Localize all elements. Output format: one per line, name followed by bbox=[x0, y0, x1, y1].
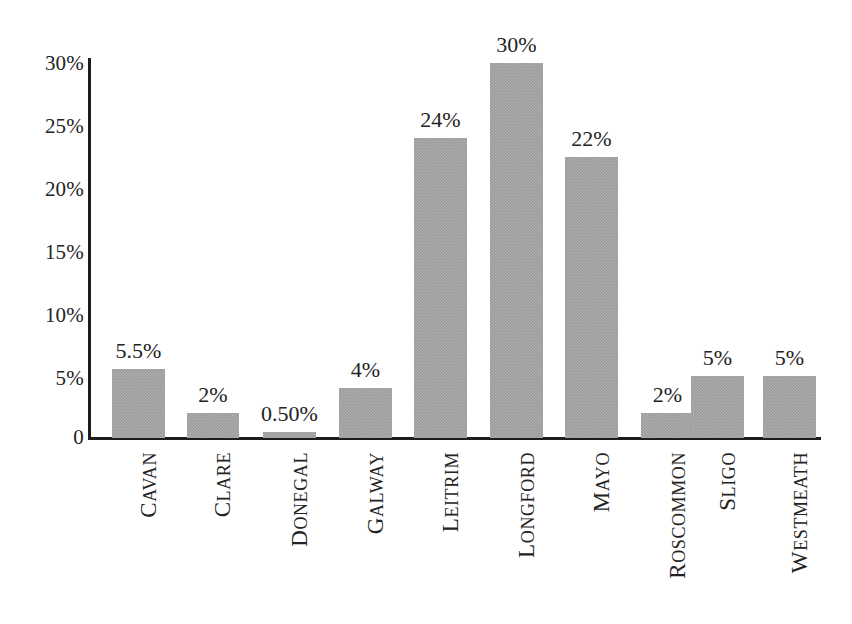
bar-westmeath[interactable] bbox=[763, 376, 816, 438]
x-label-slot-westmeath: WESTMEATH bbox=[763, 444, 816, 619]
x-label-cavan: CAVAN bbox=[139, 452, 160, 518]
bar-mayo[interactable] bbox=[565, 157, 618, 438]
x-label-slot-cavan: CAVAN bbox=[112, 444, 165, 619]
x-label-leitrim: LEITRIM bbox=[441, 452, 462, 532]
x-label-sligo: SLIGO bbox=[718, 452, 739, 511]
x-label-slot-roscommon: ROSCOMMON bbox=[641, 444, 694, 619]
x-label-westmeath: WESTMEATH bbox=[790, 452, 811, 573]
x-label-mayo: MAYO bbox=[592, 452, 613, 512]
plot-area: 5.5% 2% 0.50% 4% 24% 30% 22% 2% bbox=[91, 58, 821, 438]
bar-group-mayo[interactable]: 22% bbox=[565, 58, 618, 438]
bar-value-galway: 4% bbox=[351, 359, 380, 381]
bar-group-clare[interactable]: 2% bbox=[187, 58, 239, 438]
x-label-slot-longford: LONGFORD bbox=[490, 444, 543, 619]
x-label-slot-mayo: MAYO bbox=[565, 444, 618, 619]
y-tick-label-0: 0 bbox=[0, 427, 84, 448]
bar-group-galway[interactable]: 4% bbox=[339, 58, 392, 438]
bar-value-donegal: 0.50% bbox=[261, 403, 318, 425]
bar-value-roscommon: 2% bbox=[653, 384, 682, 406]
x-label-slot-donegal: DONEGAL bbox=[263, 444, 316, 619]
bar-galway[interactable] bbox=[339, 388, 392, 438]
bar-group-leitrim[interactable]: 24% bbox=[414, 58, 467, 438]
bar-leitrim[interactable] bbox=[414, 138, 467, 438]
bar-value-cavan: 5.5% bbox=[116, 340, 162, 362]
y-tick-label-20: 20% bbox=[0, 179, 84, 200]
bar-group-cavan[interactable]: 5.5% bbox=[112, 58, 165, 438]
y-tick-label-10: 10% bbox=[0, 305, 84, 326]
x-label-slot-galway: GALWAY bbox=[339, 444, 392, 619]
bar-value-westmeath: 5% bbox=[775, 347, 804, 369]
x-label-donegal: DONEGAL bbox=[290, 452, 311, 547]
bar-group-longford[interactable]: 30% bbox=[490, 58, 543, 438]
x-label-longford: LONGFORD bbox=[517, 452, 538, 558]
y-tick-label-30: 30% bbox=[0, 53, 84, 74]
bar-value-clare: 2% bbox=[198, 384, 227, 406]
x-label-slot-sligo: SLIGO bbox=[691, 444, 744, 619]
x-label-clare: CLARE bbox=[213, 452, 234, 517]
bar-cavan[interactable] bbox=[112, 369, 165, 438]
bar-longford[interactable] bbox=[490, 63, 543, 438]
bar-group-roscommon[interactable]: 2% bbox=[641, 58, 694, 438]
y-tick-label-5: 5% bbox=[0, 368, 84, 389]
bar-group-donegal[interactable]: 0.50% bbox=[263, 58, 316, 438]
x-label-roscommon: ROSCOMMON bbox=[668, 452, 689, 579]
bar-value-leitrim: 24% bbox=[420, 109, 460, 131]
bar-group-westmeath[interactable]: 5% bbox=[763, 58, 816, 438]
y-axis-tick-labels: 30% 25% 20% 15% 10% 5% 0 bbox=[0, 0, 84, 624]
bar-donegal[interactable] bbox=[263, 432, 316, 438]
bar-roscommon[interactable] bbox=[641, 413, 694, 438]
y-tick-label-25: 25% bbox=[0, 116, 84, 137]
bar-clare[interactable] bbox=[187, 413, 239, 438]
bar-chart: 30% 25% 20% 15% 10% 5% 0 5.5% 2% 0.50% 4… bbox=[0, 0, 852, 624]
x-label-galway: GALWAY bbox=[366, 452, 387, 534]
bar-value-sligo: 5% bbox=[703, 347, 732, 369]
y-tick-label-15: 15% bbox=[0, 242, 84, 263]
bar-group-sligo[interactable]: 5% bbox=[691, 58, 744, 438]
bar-value-mayo: 22% bbox=[571, 128, 611, 150]
x-label-slot-clare: CLARE bbox=[187, 444, 239, 619]
x-label-slot-leitrim: LEITRIM bbox=[414, 444, 467, 619]
bar-sligo[interactable] bbox=[691, 376, 744, 438]
x-axis-category-labels: CAVAN CLARE DONEGAL GALWAY LEITRIM LONGF… bbox=[91, 444, 821, 619]
bar-value-longford: 30% bbox=[496, 34, 536, 56]
